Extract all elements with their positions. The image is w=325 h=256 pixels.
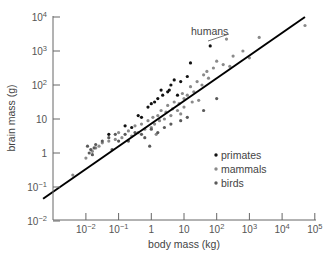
data-point-birds (114, 133, 117, 136)
data-point-birds (156, 131, 159, 134)
y-tick-label: 10−2 (27, 214, 47, 227)
x-tick-label: 103 (242, 222, 257, 235)
data-point-mammals (197, 99, 200, 102)
data-point-mammals (189, 85, 192, 88)
data-point-birds (169, 123, 172, 126)
x-tick-label: 10−1 (109, 222, 129, 235)
data-point-primates (176, 94, 179, 97)
data-point-primates (160, 89, 163, 92)
data-point-birds (124, 133, 127, 136)
data-point-mammals (140, 123, 143, 126)
data-point-mammals (258, 36, 261, 39)
data-point-mammals (84, 157, 87, 160)
data-point-birds (101, 140, 104, 143)
data-point-primates (161, 94, 164, 97)
y-tick-label: 10−1 (27, 180, 47, 193)
data-point-mammals (117, 131, 120, 134)
x-tick-label: 105 (307, 222, 322, 235)
data-point-mammals (186, 94, 189, 97)
data-point-primates (146, 106, 149, 109)
data-point-birds (186, 116, 189, 119)
x-tick-label: 104 (274, 222, 289, 235)
data-point-birds (88, 151, 91, 154)
data-point-mammals (156, 114, 159, 117)
data-point-birds (143, 136, 146, 139)
data-point-primates (186, 75, 189, 78)
data-point-primates (189, 61, 192, 64)
x-tick-label: 10−2 (76, 222, 96, 235)
data-point-primates (140, 116, 143, 119)
data-point-mammals (114, 138, 117, 141)
legend-label-mammals: mammals (221, 163, 267, 175)
data-point-mammals (241, 49, 244, 52)
data-point-mammals (202, 73, 205, 76)
data-point-birds (163, 126, 166, 129)
data-point-primates (173, 78, 176, 81)
data-point-mammals (166, 104, 169, 107)
brain-body-scatter-chart: 10−210−1110102103104 10−210−111010210310… (0, 0, 325, 256)
data-point-mammals (176, 109, 179, 112)
data-point-birds (91, 153, 94, 156)
data-point-birds (93, 146, 96, 149)
data-point-mammals (212, 66, 215, 69)
x-tick-label: 10 (178, 224, 190, 235)
data-point-primates (124, 124, 127, 127)
x-axis-ticks: 10−210−1110102103104105 (76, 213, 322, 235)
data-point-mammals (151, 116, 154, 119)
data-point-mammals (225, 38, 228, 41)
data-point-mammals (169, 114, 172, 117)
data-point-mammals (107, 140, 110, 143)
data-point-mammals (182, 106, 185, 109)
data-point-mammals (181, 92, 184, 95)
y-tick-label: 103 (32, 44, 47, 57)
data-point-primates (166, 90, 169, 93)
data-point-mammals (179, 112, 182, 115)
data-point-primates (209, 44, 212, 47)
data-point-primates (156, 97, 159, 100)
data-point-mammals (303, 24, 306, 27)
data-point-birds (179, 119, 182, 122)
data-point-mammals (207, 77, 210, 80)
data-point-birds (150, 128, 153, 131)
y-tick-label: 102 (32, 78, 47, 91)
data-point-mammals (191, 100, 194, 103)
y-tick-label: 10 (36, 114, 48, 125)
data-point-primates (169, 83, 172, 86)
data-point-birds (86, 145, 89, 148)
y-axis-label: brain mass (g) (5, 84, 17, 151)
x-axis-label: body mass (kg) (148, 238, 220, 250)
data-point-mammals (127, 129, 130, 132)
data-point-mammals (163, 117, 166, 120)
data-point-primates (130, 126, 133, 129)
data-point-mammals (215, 60, 218, 63)
x-tick-label: 102 (209, 222, 224, 235)
data-point-mammals (200, 83, 203, 86)
data-point-mammals (160, 109, 163, 112)
data-point-mammals (133, 124, 136, 127)
legend-marker-primates (214, 153, 217, 156)
data-point-birds (202, 109, 205, 112)
data-point-mammals (222, 63, 225, 66)
data-point-birds (140, 133, 143, 136)
data-point-mammals (196, 80, 199, 83)
data-point-birds (215, 97, 218, 100)
data-point-mammals (173, 100, 176, 103)
data-point-mammals (205, 70, 208, 73)
legend-marker-mammals (214, 167, 217, 170)
humans-annotation: humans (191, 25, 228, 37)
legend-marker-birds (214, 181, 217, 184)
data-point-birds (94, 143, 97, 146)
data-point-primates (137, 114, 140, 117)
y-tick-label: 1 (41, 148, 47, 159)
y-axis-ticks: 10−210−1110102103104 (27, 10, 60, 227)
x-tick-label: 1 (149, 224, 155, 235)
data-point-primates (150, 102, 153, 105)
data-point-mammals (232, 55, 235, 58)
data-point-birds (117, 140, 120, 143)
legend-label-birds: birds (221, 177, 244, 189)
data-point-birds (148, 145, 151, 148)
data-point-primates (107, 133, 110, 136)
legend: primates mammals birds (214, 149, 266, 189)
data-point-birds (89, 148, 92, 151)
y-tick-label: 104 (32, 10, 47, 23)
